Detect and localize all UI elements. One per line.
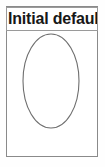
ellipse-outline [23, 34, 79, 128]
figure-canvas: Initial default f [0, 0, 105, 167]
ellipse-shape [22, 33, 80, 129]
label-box: Initial default f [6, 7, 98, 31]
label-text: Initial default f [8, 9, 98, 29]
